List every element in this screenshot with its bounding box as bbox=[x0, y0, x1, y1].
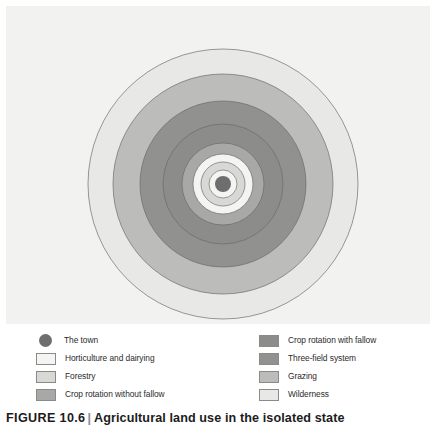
legend-label: Crop rotation with fallow bbox=[288, 336, 376, 344]
legend-item: The town bbox=[36, 332, 236, 349]
legend-label: Wilderness bbox=[288, 390, 329, 398]
legend-label: The town bbox=[64, 336, 98, 344]
ring-group bbox=[88, 49, 358, 319]
wilderness-swatch bbox=[259, 389, 279, 401]
forestry-swatch bbox=[36, 371, 56, 383]
caption-separator: | bbox=[87, 411, 91, 425]
town-dot bbox=[39, 334, 52, 347]
legend-item: Wilderness bbox=[259, 386, 434, 403]
crop-rotation-no-fallow-swatch bbox=[36, 389, 56, 401]
three-field-swatch bbox=[259, 353, 279, 365]
figure-caption: FIGURE 10.6|Agricultural land use in the… bbox=[6, 408, 430, 430]
figure-container: The townHorticulture and dairyingForestr… bbox=[0, 0, 436, 434]
crop-rotation-with-fallow-swatch bbox=[259, 335, 279, 347]
legend-label: Three-field system bbox=[288, 354, 356, 362]
grazing-swatch bbox=[259, 371, 279, 383]
legend-item: Three-field system bbox=[259, 350, 434, 367]
legend-item: Crop rotation with fallow bbox=[259, 332, 434, 349]
legend-item: Horticulture and dairying bbox=[36, 350, 236, 367]
legend-label: Grazing bbox=[288, 372, 317, 380]
diagram-panel bbox=[6, 6, 430, 324]
ring-the-town bbox=[215, 176, 231, 192]
legend-item: Crop rotation without fallow bbox=[36, 386, 236, 403]
horticulture-swatch bbox=[36, 353, 56, 365]
figure-number: FIGURE 10.6 bbox=[6, 411, 85, 425]
legend-label: Crop rotation without fallow bbox=[65, 390, 165, 398]
figure-title: Agricultural land use in the isolated st… bbox=[94, 411, 345, 425]
legend-label: Horticulture and dairying bbox=[65, 354, 155, 362]
legend-item: Forestry bbox=[36, 368, 236, 385]
concentric-rings-diagram bbox=[6, 6, 430, 324]
legend-panel: The townHorticulture and dairyingForestr… bbox=[6, 330, 430, 402]
legend-column-left: The townHorticulture and dairyingForestr… bbox=[36, 332, 236, 404]
legend-label: Forestry bbox=[65, 372, 95, 380]
legend-column-right: Crop rotation with fallowThree-field sys… bbox=[259, 332, 434, 404]
legend-item: Grazing bbox=[259, 368, 434, 385]
